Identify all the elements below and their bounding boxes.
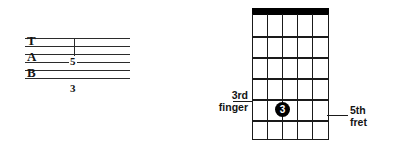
fretboard-grid: 3 — [252, 8, 329, 140]
annotation-fret-leader-line — [327, 115, 348, 116]
annotation-finger-line1: 3rd — [200, 89, 248, 101]
string-line-1 — [328, 14, 329, 140]
annotation-fret-line1: 5th — [350, 104, 392, 116]
fret-line-3 — [252, 78, 329, 80]
tab-fret-number: 5 — [69, 56, 77, 67]
fret-line-2 — [252, 57, 329, 59]
tab-clef-letter-t: T — [27, 33, 43, 49]
string-line-4 — [282, 14, 283, 140]
tab-finger-number: 3 — [70, 83, 76, 94]
string-line-2 — [312, 14, 313, 140]
tab-clef-letter-b: B — [27, 65, 43, 81]
annotation-fret-line2: fret — [350, 116, 392, 128]
fret-line-5 — [252, 120, 329, 122]
chord-diagram-figure: 3 3rd finger 5th fret — [195, 0, 393, 146]
finger-dot-marker: 3 — [275, 102, 290, 117]
string-line-5 — [267, 14, 268, 140]
nut-bar — [252, 8, 329, 15]
fret-line-6 — [252, 139, 329, 140]
annotation-finger-leader-line — [233, 101, 253, 102]
string-line-6 — [252, 14, 253, 140]
tab-clef-letter-a: A — [27, 49, 43, 65]
annotation-fret-label: 5th fret — [350, 104, 392, 128]
string-line-3 — [297, 14, 298, 140]
figure-canvas: T A B 5 3 3 3rd finger — [0, 0, 393, 146]
fret-line-1 — [252, 36, 329, 38]
tab-clef: T A B — [27, 33, 43, 81]
tablature-figure: T A B 5 3 — [0, 0, 195, 146]
fret-line-4 — [252, 99, 329, 101]
annotation-finger-line2: finger — [200, 101, 248, 113]
